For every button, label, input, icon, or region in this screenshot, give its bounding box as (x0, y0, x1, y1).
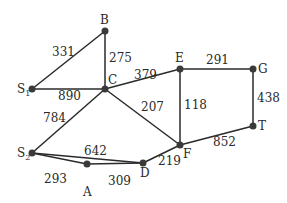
weight-s1-b: 331 (52, 45, 75, 59)
node-t (250, 123, 257, 130)
weight-a-d: 309 (108, 174, 131, 188)
weight-d-f: 219 (158, 154, 181, 168)
weight-s1-c: 890 (58, 89, 81, 103)
weight-c-s2: 784 (43, 111, 66, 125)
weight-c-f: 207 (141, 100, 164, 114)
node-a (84, 161, 91, 168)
edge-s1-b (32, 31, 105, 89)
node-label-c: C (108, 73, 117, 87)
weight-e-g: 291 (206, 53, 229, 67)
node-label-e: E (175, 51, 184, 65)
edge-c-f (105, 89, 180, 145)
weight-s2-d: 642 (84, 144, 107, 158)
node-b (102, 28, 109, 35)
weight-c-e: 379 (134, 68, 157, 82)
node-label-d: D (140, 166, 150, 180)
node-label-g: G (258, 62, 268, 76)
node-label-t: T (258, 119, 266, 133)
node-label-b: B (100, 13, 109, 27)
node-g (250, 66, 257, 73)
node-e (177, 66, 184, 73)
node-label-s2: S2 (17, 146, 30, 162)
weight-g-t: 438 (257, 91, 280, 105)
node-label-a: A (82, 185, 92, 199)
weight-e-f: 118 (184, 98, 207, 112)
weight-f-t: 852 (213, 135, 236, 149)
node-label-s1: S1 (17, 82, 30, 98)
node-label-f: F (183, 147, 191, 161)
weight-s2-a: 293 (44, 172, 67, 186)
edge-a-d (87, 163, 143, 164)
weighted-graph: B C S1 E G T F S2 A D 331 275 890 379 29… (0, 0, 287, 203)
weight-b-c: 275 (109, 51, 132, 65)
edge-s2-a (32, 153, 87, 164)
